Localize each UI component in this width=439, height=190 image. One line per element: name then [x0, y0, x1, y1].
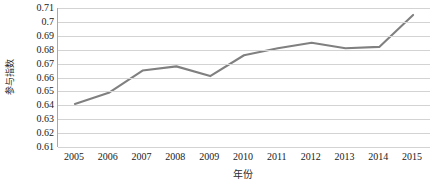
y-axis-tick-label: 0.7: [18, 17, 54, 27]
y-axis-title: 参与指数: [2, 28, 16, 124]
y-axis-tick-label: 0.65: [18, 86, 54, 96]
x-axis-title: 年份: [57, 166, 429, 181]
gridline: [58, 133, 430, 134]
y-axis-tick-label: 0.66: [18, 73, 54, 83]
gridline: [58, 105, 430, 106]
y-axis-tick-label: 0.63: [18, 114, 54, 124]
y-axis-tick-label: 0.62: [18, 128, 54, 138]
gridline: [58, 147, 430, 148]
y-axis-tick-label: 0.61: [18, 142, 54, 152]
y-axis-tick-label: 0.64: [18, 100, 54, 110]
y-axis-tick-label: 0.68: [18, 45, 54, 55]
gridline: [58, 50, 430, 51]
gridline: [58, 91, 430, 92]
gridline: [58, 119, 430, 120]
gridline: [58, 22, 430, 23]
gridline: [58, 64, 430, 65]
x-axis-tick-label: 2015: [392, 151, 432, 163]
y-axis-tick-label: 0.67: [18, 59, 54, 69]
y-axis-title-text: 参与指数: [3, 58, 16, 94]
gridline: [58, 36, 430, 37]
y-axis-tick-label: 0.69: [18, 31, 54, 41]
gridline: [58, 78, 430, 79]
y-axis-tick-label: 0.71: [18, 3, 54, 13]
gridline: [58, 8, 430, 9]
plot-area: [57, 8, 429, 147]
y-axis-tick-labels: 0.710.70.690.680.670.660.650.640.630.620…: [18, 8, 54, 154]
participation-index-line-chart: 参与指数 0.710.70.690.680.670.660.650.640.63…: [0, 0, 439, 190]
x-axis-tick-labels: 2005200620072008200920102011201220132014…: [57, 151, 429, 165]
